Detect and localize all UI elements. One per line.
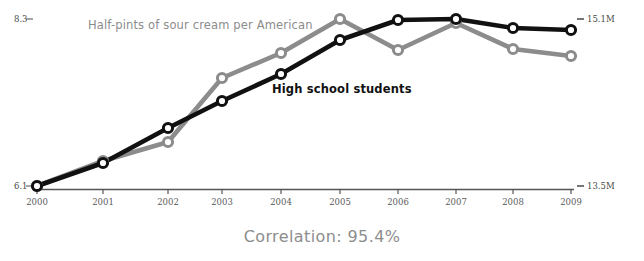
x-tick-label-2008: 2008 (502, 197, 524, 207)
series-line-sour-cream (37, 19, 571, 186)
series-label-high-school-students: High school students (272, 82, 412, 96)
left-axis-min-label: 6.1 (14, 181, 28, 191)
series-label-sour-cream: Half-pints of sour cream per American (88, 18, 313, 32)
series-line-high-school-students (37, 19, 571, 186)
x-tick-label-2005: 2005 (329, 197, 351, 207)
x-tick-label-2004: 2004 (270, 197, 292, 207)
chart-container: 8.3 6.1 15.1M 13.5M 2000 2001 2002 2003 … (0, 0, 644, 261)
x-tick-label-2000: 2000 (26, 197, 48, 207)
correlation-caption: Correlation: 95.4% (0, 227, 644, 246)
line-chart-plot (0, 0, 644, 261)
x-tick-label-2009: 2009 (560, 197, 582, 207)
x-tick-label-2002: 2002 (157, 197, 179, 207)
left-axis-max-label: 8.3 (14, 14, 28, 24)
x-tick-label-2007: 2007 (445, 197, 467, 207)
right-axis-max-label: 15.1M (587, 14, 615, 24)
x-tick-label-2001: 2001 (92, 197, 114, 207)
x-tick-label-2003: 2003 (211, 197, 233, 207)
x-tick-label-2006: 2006 (387, 197, 409, 207)
right-axis-min-label: 13.5M (587, 181, 615, 191)
